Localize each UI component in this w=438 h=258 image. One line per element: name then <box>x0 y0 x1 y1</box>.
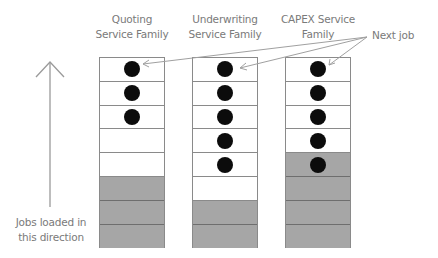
queue-slot-job <box>193 58 257 82</box>
direction-caption: Jobs loaded in this direction <box>10 215 92 245</box>
arrow-up-icon <box>36 62 64 207</box>
underwriting-queue <box>192 57 258 248</box>
queue-slot-empty <box>100 153 164 177</box>
queue-slot-job <box>193 153 257 177</box>
job-dot-icon <box>124 61 140 77</box>
next-job-label: Next job <box>372 28 414 43</box>
direction-caption-line2: this direction <box>10 230 92 245</box>
direction-caption-line1: Jobs loaded in <box>10 215 92 230</box>
queue-slot-loaded <box>286 225 350 249</box>
job-dot-icon <box>310 133 326 149</box>
queue-slot-loaded <box>100 201 164 225</box>
job-dot-icon <box>217 61 233 77</box>
job-dot-icon <box>217 109 233 125</box>
job-dot-icon <box>124 85 140 101</box>
queue-slot-job <box>286 82 350 106</box>
queue-slot-job <box>193 106 257 130</box>
queue-slot-loaded <box>100 177 164 201</box>
job-dot-icon <box>124 109 140 125</box>
queue-slot-job <box>286 106 350 130</box>
queue-slot-loaded <box>100 225 164 249</box>
capex-queue <box>285 57 351 248</box>
job-dot-icon <box>217 85 233 101</box>
queue-slot-loaded <box>286 177 350 201</box>
job-dot-icon <box>310 61 326 77</box>
job-dot-icon <box>310 85 326 101</box>
quoting-queue <box>99 57 165 248</box>
job-dot-icon <box>310 157 326 173</box>
queue-slot-job <box>286 129 350 153</box>
queue-slot-loaded-job <box>286 153 350 177</box>
capex-title-line2: Family <box>263 27 373 42</box>
queue-slot-empty <box>193 177 257 201</box>
capex-column-title: CAPEX Service Family <box>263 12 373 42</box>
queue-slot-job <box>286 58 350 82</box>
job-dot-icon <box>217 157 233 173</box>
job-dot-icon <box>217 133 233 149</box>
queue-slot-job <box>193 129 257 153</box>
queue-slot-job <box>100 82 164 106</box>
queue-slot-job <box>193 82 257 106</box>
job-dot-icon <box>310 109 326 125</box>
queue-slot-empty <box>100 129 164 153</box>
queue-slot-loaded <box>193 201 257 225</box>
queue-slot-loaded <box>193 225 257 249</box>
capex-title-line1: CAPEX Service <box>263 12 373 27</box>
queue-slot-loaded <box>286 201 350 225</box>
queue-slot-job <box>100 58 164 82</box>
queue-slot-job <box>100 106 164 130</box>
